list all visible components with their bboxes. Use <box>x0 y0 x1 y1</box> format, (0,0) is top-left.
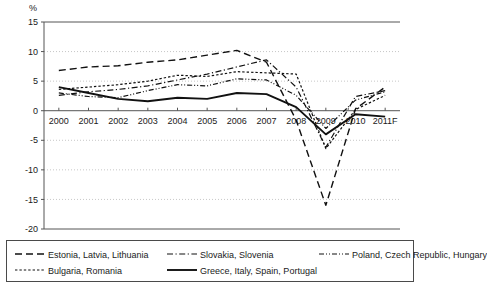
legend-swatch-bulgaria-romania <box>15 266 45 274</box>
legend-label-poland-czech-hungary: Poland, Czech Republic, Hungary <box>352 249 487 260</box>
legend-label-slovakia-slovenia: Slovakia, Slovenia <box>200 249 274 260</box>
legend-swatch-baltic <box>15 250 45 258</box>
legend-swatch-slovakia-slovenia <box>167 250 197 258</box>
y-axis-ticks: 151050-5-10-15-20 <box>25 17 44 234</box>
legend-item-baltic: Estonia, Latvia, Lithuania <box>15 249 167 260</box>
legend-row-2: Bulgaria, Romania Greece, Italy, Spain, … <box>15 262 405 278</box>
legend-swatch-greece-italy-spain-portugal <box>167 266 197 274</box>
legend-label-greece-italy-spain-portugal: Greece, Italy, Spain, Portugal <box>200 265 317 276</box>
svg-text:0: 0 <box>33 106 38 116</box>
chart-area: % 151050-5-10-15-20 20002001200220032004… <box>0 0 425 236</box>
svg-text:-5: -5 <box>30 135 38 145</box>
legend-item-greece-italy-spain-portugal: Greece, Italy, Spain, Portugal <box>167 265 317 276</box>
svg-text:2005: 2005 <box>197 116 217 126</box>
legend-swatch-poland-czech-hungary <box>319 250 349 258</box>
svg-text:15: 15 <box>28 17 38 27</box>
chart-legend: Estonia, Latvia, Lithuania Slovakia, Slo… <box>6 240 414 282</box>
series-lines <box>59 50 385 205</box>
legend-item-poland-czech-hungary: Poland, Czech Republic, Hungary <box>319 249 487 260</box>
svg-text:-10: -10 <box>25 165 38 175</box>
line-chart-plot: 151050-5-10-15-20 2000200120022003200420… <box>0 0 425 236</box>
legend-row-1: Estonia, Latvia, Lithuania Slovakia, Slo… <box>15 246 405 262</box>
legend-item-slovakia-slovenia: Slovakia, Slovenia <box>167 249 319 260</box>
svg-text:2010: 2010 <box>345 116 365 126</box>
legend-label-baltic: Estonia, Latvia, Lithuania <box>48 249 149 260</box>
svg-text:2011F: 2011F <box>373 116 398 126</box>
svg-text:2003: 2003 <box>138 116 158 126</box>
svg-text:-15: -15 <box>25 195 38 205</box>
svg-text:10: 10 <box>28 47 38 57</box>
svg-text:2001: 2001 <box>78 116 98 126</box>
svg-text:2002: 2002 <box>108 116 128 126</box>
svg-text:2000: 2000 <box>49 116 69 126</box>
svg-text:-20: -20 <box>25 224 38 234</box>
svg-text:2006: 2006 <box>227 116 247 126</box>
svg-text:2004: 2004 <box>167 116 187 126</box>
svg-text:5: 5 <box>33 76 38 86</box>
svg-text:2007: 2007 <box>256 116 276 126</box>
legend-item-bulgaria-romania: Bulgaria, Romania <box>15 265 167 276</box>
legend-label-bulgaria-romania: Bulgaria, Romania <box>48 265 122 276</box>
